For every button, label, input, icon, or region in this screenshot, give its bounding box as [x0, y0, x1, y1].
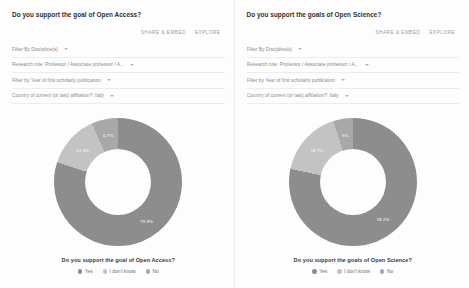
filter-list: Filter By Discipline(s) Research role: P…	[247, 42, 460, 104]
chevron-down-icon	[130, 64, 134, 66]
filter-country-label: Country of current (or last) affiliation…	[247, 92, 339, 99]
filter-research-role[interactable]: Research role: Professor / Associate pro…	[247, 58, 460, 74]
chart-caption: Do you support the goals of Open Science…	[294, 257, 412, 263]
donut-hole	[85, 149, 151, 215]
chevron-down-icon	[64, 48, 68, 50]
chart-legend: Yes I don't know No	[312, 269, 393, 274]
donut-wrapper: 79.9% 13.3% 6.7%	[54, 118, 182, 246]
filter-publication-year[interactable]: Filter by Year of first scholarly public…	[247, 73, 460, 89]
filter-discipline-label: Filter By Discipline(s)	[12, 46, 58, 53]
chart-legend: Yes I don't know No	[78, 269, 159, 274]
chevron-down-icon	[345, 95, 349, 97]
filter-publication-year-label: Filter by Year of first scholarly public…	[247, 77, 336, 84]
legend-label-no: No	[387, 269, 393, 274]
filter-discipline[interactable]: Filter By Discipline(s)	[12, 42, 225, 58]
share-and-embed-link[interactable]: SHARE & EMBED	[141, 30, 186, 35]
filter-country[interactable]: Country of current (or last) affiliation…	[12, 89, 225, 105]
panel-toolbar: SHARE & EMBED EXPLORE	[12, 28, 225, 36]
legend-item-idk[interactable]: I don't know	[103, 269, 136, 274]
filter-publication-year-label: Filter by Year of first scholarly public…	[12, 77, 101, 84]
legend-dot-yes	[312, 269, 316, 273]
legend-item-no[interactable]: No	[380, 269, 393, 274]
legend-label-idk: I don't know	[344, 269, 370, 274]
explore-link[interactable]: EXPLORE	[429, 30, 455, 35]
share-and-embed-link[interactable]: SHARE & EMBED	[376, 30, 421, 35]
legend-item-yes[interactable]: Yes	[312, 269, 327, 274]
legend-dot-no	[380, 269, 384, 273]
filter-publication-year[interactable]: Filter by Year of first scholarly public…	[12, 73, 225, 89]
slice-label-yes: 79.9%	[140, 218, 153, 223]
legend-label-idk: I don't know	[110, 269, 136, 274]
chart-caption: Do you support the goal of Open Access?	[62, 257, 175, 263]
filter-research-role-label: Research role: Professor / Associate pro…	[247, 61, 359, 68]
dashboard-page: Do you support the goal of Open Access? …	[0, 0, 469, 288]
page-title: Do you support the goal of Open Access?	[12, 10, 225, 19]
slice-label-idk: 16.7%	[311, 147, 324, 152]
legend-label-yes: Yes	[85, 269, 93, 274]
legend-label-no: No	[152, 269, 158, 274]
chevron-down-icon	[298, 48, 302, 50]
filter-research-role-label: Research role: Professor / Associate pro…	[12, 61, 124, 68]
page-title: Do you support the goals of Open Science…	[247, 10, 460, 19]
donut-chart-open-science: 78.2% 16.7% 5%	[247, 111, 460, 253]
filter-country[interactable]: Country of current (or last) affiliation…	[247, 89, 460, 105]
legend-item-no[interactable]: No	[146, 269, 159, 274]
filter-discipline-label: Filter By Discipline(s)	[247, 46, 293, 53]
chevron-down-icon	[110, 95, 114, 97]
legend-dot-yes	[78, 269, 82, 273]
filter-discipline[interactable]: Filter By Discipline(s)	[247, 42, 460, 58]
donut-wrapper: 78.2% 16.7% 5%	[289, 118, 417, 246]
slice-label-idk: 13.3%	[76, 147, 89, 152]
chevron-down-icon	[341, 79, 345, 81]
panel-toolbar: SHARE & EMBED EXPLORE	[247, 28, 460, 36]
filter-research-role[interactable]: Research role: Professor / Associate pro…	[12, 58, 225, 74]
chart-footer: Do you support the goals of Open Science…	[247, 257, 460, 274]
legend-label-yes: Yes	[319, 269, 327, 274]
donut-chart-open-access: 79.9% 13.3% 6.7%	[12, 111, 225, 253]
slice-label-no: 6.7%	[103, 133, 113, 138]
chevron-down-icon	[365, 64, 369, 66]
slice-label-yes: 78.2%	[377, 217, 390, 222]
chevron-down-icon	[107, 79, 111, 81]
slice-label-no: 5%	[342, 132, 349, 137]
legend-dot-idk	[337, 269, 341, 273]
filter-country-label: Country of current (or last) affiliation…	[12, 92, 104, 99]
explore-link[interactable]: EXPLORE	[195, 30, 221, 35]
donut-hole	[320, 149, 386, 215]
panel-open-access: Do you support the goal of Open Access? …	[0, 0, 235, 288]
legend-dot-no	[146, 269, 150, 273]
filter-list: Filter By Discipline(s) Research role: P…	[12, 42, 225, 104]
legend-item-idk[interactable]: I don't know	[337, 269, 370, 274]
panel-open-science: Do you support the goals of Open Science…	[235, 0, 469, 288]
legend-item-yes[interactable]: Yes	[78, 269, 93, 274]
chart-footer: Do you support the goal of Open Access? …	[12, 257, 225, 274]
legend-dot-idk	[103, 269, 107, 273]
